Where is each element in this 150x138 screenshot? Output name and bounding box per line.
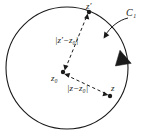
orientation-arrowhead-icon [113,49,132,67]
contour-circle [6,7,128,129]
label-z: z [111,84,115,93]
pointer-arrowhead-icon [104,31,110,38]
contour-pointer-arrow [104,18,128,39]
label-distance-z-z0: |z−z₀| [67,84,88,93]
label-contour-c1: C₁ [126,8,136,18]
arrowhead-up-icon [84,14,89,20]
label-z-zero: z₀ [51,74,58,83]
label-z-prime: z′ [86,2,91,11]
complex-plane-circle-figure: z′ C₁ |z′−z₀| z₀ |z−z₀| z [0,0,150,138]
point-z-zero [61,70,65,74]
figure-canvas [0,0,150,138]
arrowhead-down-icon [63,65,68,71]
point-z [108,94,112,98]
arrowhead-left-icon [64,73,70,78]
label-distance-zprime-z0: |z′−z₀| [55,36,78,45]
